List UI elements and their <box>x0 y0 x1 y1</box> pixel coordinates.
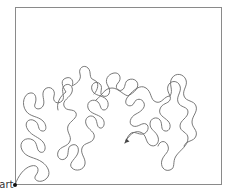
start-label: Start <box>0 179 13 191</box>
meander-stitch-path <box>15 73 188 185</box>
meander-stitch-path-upper <box>57 66 196 146</box>
start-point-dot <box>13 183 17 187</box>
quilt-frame <box>16 8 222 185</box>
quilting-diagram <box>0 0 227 193</box>
